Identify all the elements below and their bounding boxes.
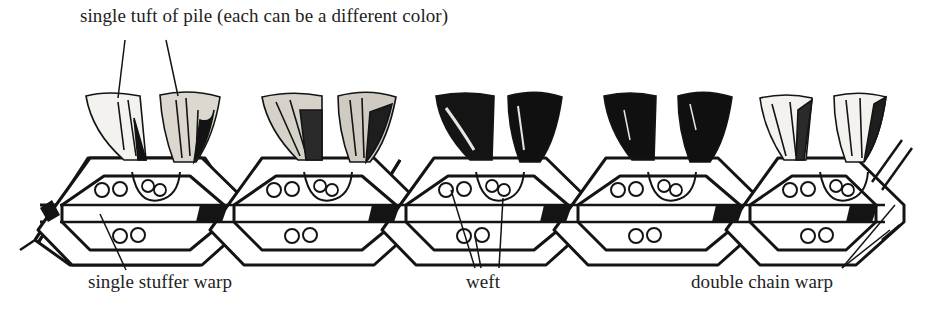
label-weft: weft (466, 271, 500, 293)
leader-tuft-1 (118, 40, 125, 98)
carpet-weave-diagram (0, 0, 929, 309)
tuft-3a (436, 93, 494, 160)
tuft-4b (678, 92, 732, 162)
warp-cells (38, 158, 904, 265)
pile-tufts (86, 92, 886, 162)
label-single-tuft: single tuft of pile (each can be a diffe… (80, 5, 448, 27)
tuft-4a (604, 93, 656, 160)
leader-tuft-2 (166, 40, 178, 96)
tuft-3b (508, 92, 562, 162)
label-single-stuffer-warp: single stuffer warp (88, 271, 232, 293)
label-double-chain-warp: double chain warp (691, 271, 833, 293)
